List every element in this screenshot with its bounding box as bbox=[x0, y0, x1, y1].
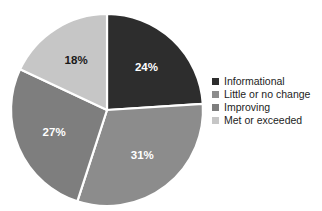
legend-item[interactable]: Informational bbox=[212, 75, 320, 88]
legend-item[interactable]: Improving bbox=[212, 101, 320, 114]
legend-item[interactable]: Met or exceeded bbox=[212, 114, 320, 127]
legend-swatch-icon bbox=[212, 117, 219, 124]
legend-item-label: Improving bbox=[224, 101, 270, 114]
legend-item-label: Little or no change bbox=[224, 88, 310, 101]
legend-swatch-icon bbox=[212, 91, 219, 98]
pie-slice-value-label: 31% bbox=[131, 149, 154, 161]
legend-item[interactable]: Little or no change bbox=[212, 88, 320, 101]
chart-legend: InformationalLittle or no changeImprovin… bbox=[212, 75, 320, 127]
pie-chart: 24%31%27%18% InformationalLittle or no c… bbox=[0, 0, 322, 211]
legend-swatch-icon bbox=[212, 78, 219, 85]
pie-slice-value-label: 24% bbox=[135, 61, 158, 73]
legend-item-label: Informational bbox=[224, 75, 285, 88]
pie-slice-group bbox=[11, 14, 203, 206]
legend-swatch-icon bbox=[212, 104, 219, 111]
legend-item-label: Met or exceeded bbox=[224, 114, 302, 127]
pie-slice-value-label: 18% bbox=[65, 54, 88, 66]
pie-slice-value-label: 27% bbox=[43, 126, 66, 138]
